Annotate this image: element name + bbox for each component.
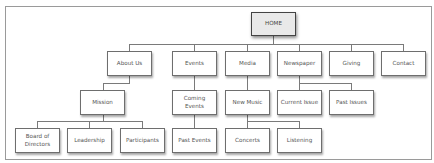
connector <box>103 83 104 90</box>
node-new-music[interactable]: New Music <box>225 90 270 115</box>
connector <box>299 121 300 128</box>
node-label: HOME <box>263 20 284 28</box>
connector <box>299 83 352 84</box>
node-label: Participants <box>124 137 161 145</box>
node-label: Past Issues <box>334 99 369 107</box>
connector <box>247 121 300 122</box>
node-past-events[interactable]: Past Events <box>172 128 217 153</box>
connector <box>351 44 352 51</box>
node-giving[interactable]: Giving <box>329 51 374 76</box>
node-about-us[interactable]: About Us <box>107 51 152 76</box>
node-label: Current Issue <box>279 99 320 107</box>
connector <box>351 83 352 90</box>
node-label: Concerts <box>233 137 262 145</box>
node-mission[interactable]: Mission <box>80 90 125 115</box>
node-contact[interactable]: Contact <box>381 51 426 76</box>
node-current-issue[interactable]: Current Issue <box>277 90 322 115</box>
node-events[interactable]: Events <box>172 51 217 76</box>
connector <box>299 44 300 51</box>
node-label: Newspaper <box>282 60 317 68</box>
node-coming-events[interactable]: Coming Events <box>172 90 217 115</box>
connector <box>403 44 404 51</box>
node-label: Leadership <box>72 137 107 145</box>
connector <box>194 44 195 51</box>
node-label: About Us <box>115 60 144 68</box>
node-label: Mission <box>90 99 115 107</box>
connector <box>103 83 130 84</box>
node-label: Coming Events <box>173 95 216 110</box>
node-participants[interactable]: Participants <box>120 128 165 153</box>
node-media[interactable]: Media <box>225 51 270 76</box>
node-past-issues[interactable]: Past Issues <box>329 90 374 115</box>
node-label: Giving <box>341 60 363 68</box>
node-label: Events <box>183 60 206 68</box>
connector <box>37 121 38 128</box>
connector <box>247 76 248 90</box>
connector <box>273 36 274 44</box>
node-label: New Music <box>231 99 265 107</box>
node-board-of-directors[interactable]: Board of Directors <box>15 128 60 153</box>
connector <box>247 44 248 51</box>
connector <box>37 121 143 122</box>
node-newspaper[interactable]: Newspaper <box>277 51 322 76</box>
connector <box>142 121 143 128</box>
connector <box>194 115 195 128</box>
node-concerts[interactable]: Concerts <box>225 128 270 153</box>
node-label: Listening <box>285 137 314 145</box>
connector <box>129 76 130 83</box>
node-label: Media <box>237 60 258 68</box>
node-label: Contact <box>391 60 417 68</box>
node-listening[interactable]: Listening <box>277 128 322 153</box>
connector <box>89 121 90 128</box>
node-label: Board of Directors <box>21 133 55 148</box>
node-leadership[interactable]: Leadership <box>67 128 112 153</box>
connector <box>194 76 195 90</box>
node-label: Past Events <box>176 137 212 145</box>
connector <box>129 44 130 51</box>
connector <box>129 44 404 45</box>
node-home[interactable]: HOME <box>251 12 296 36</box>
